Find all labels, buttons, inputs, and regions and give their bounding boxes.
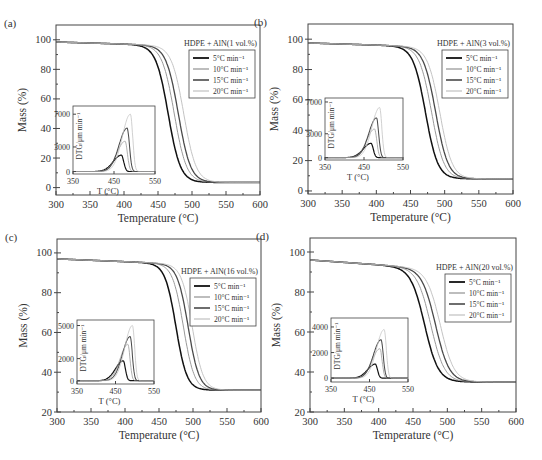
inset-x-axis-label: T (°C) xyxy=(97,186,119,196)
y-tick-label: 80 xyxy=(293,64,304,75)
y-tick-label: 80 xyxy=(41,64,52,75)
x-tick-label: 600 xyxy=(252,199,268,210)
figure-canvas: (a)300350400450500550600020406080100Temp… xyxy=(0,0,542,460)
x-tick-label: 600 xyxy=(508,416,524,427)
inset-x-tick-label: 550 xyxy=(149,177,161,186)
inset-y-tick-label: 7000 xyxy=(306,98,322,107)
inset-dtg: 350450550030007000T (°C)DTG/μm min⁻¹ xyxy=(54,106,161,196)
inset-dtg: 350450550020005000T (°C)DTG/μm min⁻¹ xyxy=(58,320,160,406)
y-tick-label: 80 xyxy=(295,287,306,298)
inset-y-tick-label: 0 xyxy=(324,374,328,383)
y-tick-label: 60 xyxy=(41,93,52,104)
y-axis-label: Mass (%) xyxy=(268,87,281,132)
y-tick-label: 40 xyxy=(41,123,52,134)
x-tick-label: 350 xyxy=(336,416,352,427)
legend-label: 20°C min⁻¹ xyxy=(469,311,504,320)
x-tick-label: 300 xyxy=(49,416,65,427)
x-axis-label: Temperature (°C) xyxy=(370,211,451,224)
legend-title: HDPE + AlN(1 vol.%) xyxy=(184,39,257,48)
y-tick-label: 20 xyxy=(295,407,306,418)
inset-x-tick-label: 450 xyxy=(364,385,376,394)
inset-x-tick-label: 350 xyxy=(71,387,83,396)
y-tick-label: 100 xyxy=(35,34,51,45)
y-tick-label: 100 xyxy=(287,34,303,45)
tga-figure: (a)300350400450500550600020406080100Temp… xyxy=(0,0,542,460)
y-tick-label: 0 xyxy=(46,182,51,193)
y-tick-label: 100 xyxy=(289,247,305,258)
inset-y-axis-label: DTG/μm min⁻¹ xyxy=(327,101,336,148)
x-tick-label: 400 xyxy=(368,198,384,209)
inset-frame xyxy=(331,318,408,382)
inset-x-axis-label: T (°C) xyxy=(353,394,375,404)
x-tick-label: 500 xyxy=(439,416,455,427)
y-axis-label: Mass (%) xyxy=(270,303,283,348)
x-tick-label: 500 xyxy=(437,198,453,209)
x-axis-label: Temperature (°C) xyxy=(118,212,199,225)
inset-x-tick-label: 550 xyxy=(397,163,409,172)
y-tick-label: 20 xyxy=(42,407,53,418)
legend-label: 15°C min⁻¹ xyxy=(466,76,501,85)
inset-x-axis-label: T (°C) xyxy=(347,172,369,182)
x-tick-label: 400 xyxy=(117,416,133,427)
x-axis-label: Temperature (°C) xyxy=(373,429,454,442)
x-tick-label: 300 xyxy=(300,198,316,209)
legend-label: 20°C min⁻¹ xyxy=(466,87,501,96)
x-tick-label: 450 xyxy=(405,416,421,427)
x-tick-label: 550 xyxy=(474,416,490,427)
y-tick-label: 40 xyxy=(295,367,306,378)
legend-label: 10°C min⁻¹ xyxy=(214,293,249,302)
inset-dtg: 350450550020004000T (°C)DTG/μm min⁻¹ xyxy=(312,318,414,404)
panel-label: (c) xyxy=(5,231,18,244)
x-tick-label: 350 xyxy=(83,416,99,427)
legend-title: HDPE + AlN(16 vol.%) xyxy=(181,267,258,276)
inset-y-tick-label: 3000 xyxy=(54,143,70,152)
inset-y-tick-label: 2000 xyxy=(58,355,74,364)
legend-label: 15°C min⁻¹ xyxy=(214,304,249,313)
x-tick-label: 550 xyxy=(471,198,487,209)
x-tick-label: 500 xyxy=(185,416,201,427)
inset-x-tick-label: 450 xyxy=(358,163,370,172)
x-tick-label: 300 xyxy=(302,416,318,427)
y-tick-label: 40 xyxy=(293,125,304,136)
x-axis-label: Temperature (°C) xyxy=(119,429,200,442)
legend-title: HDPE + AlN(3 vol.%) xyxy=(437,39,510,48)
x-tick-label: 500 xyxy=(184,199,200,210)
x-tick-label: 600 xyxy=(253,416,269,427)
y-tick-label: 60 xyxy=(42,327,53,338)
inset-y-tick-label: 0 xyxy=(70,377,74,386)
x-tick-label: 550 xyxy=(218,199,234,210)
panel-c: (c)30035040045050055060020406080100Tempe… xyxy=(5,231,269,442)
y-tick-label: 80 xyxy=(42,287,53,298)
inset-x-tick-label: 550 xyxy=(402,385,414,394)
y-tick-label: 100 xyxy=(36,247,52,258)
inset-x-tick-label: 350 xyxy=(67,177,79,186)
legend-label: 10°C min⁻¹ xyxy=(213,65,248,74)
legend-label: 15°C min⁻¹ xyxy=(213,76,248,85)
legend-label: 5°C min⁻¹ xyxy=(466,54,498,63)
legend-label: 5°C min⁻¹ xyxy=(214,282,246,291)
legend-label: 15°C min⁻¹ xyxy=(469,300,504,309)
inset-y-tick-label: 5000 xyxy=(58,322,74,331)
inset-y-tick-label: 7000 xyxy=(54,110,70,119)
legend-label: 10°C min⁻¹ xyxy=(469,289,504,298)
x-tick-label: 450 xyxy=(150,199,166,210)
y-axis-label: Mass (%) xyxy=(17,303,30,348)
inset-y-axis-label: DTG/μm min⁻¹ xyxy=(333,322,342,369)
x-tick-label: 350 xyxy=(82,199,98,210)
inset-y-axis-label: DTG/μm min⁻¹ xyxy=(79,324,88,371)
inset-y-tick-label: 3000 xyxy=(306,130,322,139)
panel-d: (d)30035040045050055060020406080100Tempe… xyxy=(256,230,524,442)
inset-x-tick-label: 450 xyxy=(110,387,122,396)
inset-y-tick-label: 0 xyxy=(318,154,322,163)
y-tick-label: 60 xyxy=(293,94,304,105)
panel-label: (d) xyxy=(256,230,269,243)
panel-label: (b) xyxy=(254,16,267,29)
inset-x-tick-label: 450 xyxy=(108,177,120,186)
y-tick-label: 60 xyxy=(295,327,306,338)
x-tick-label: 550 xyxy=(219,416,235,427)
x-tick-label: 450 xyxy=(151,416,167,427)
x-tick-label: 400 xyxy=(116,199,132,210)
inset-x-axis-label: T (°C) xyxy=(99,396,121,406)
inset-y-tick-label: 2000 xyxy=(312,349,328,358)
y-tick-label: 20 xyxy=(41,153,52,164)
